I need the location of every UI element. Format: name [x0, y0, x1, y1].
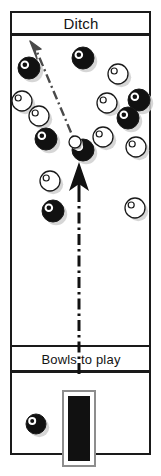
rink-svg: Ditch Bowls to play: [0, 0, 161, 476]
ditch-label: Ditch: [63, 15, 98, 32]
mat: [63, 391, 95, 466]
bowls-rink-diagram: Ditch Bowls to play: [0, 0, 161, 476]
bowls-to-play-label: Bowls to play: [41, 352, 120, 367]
